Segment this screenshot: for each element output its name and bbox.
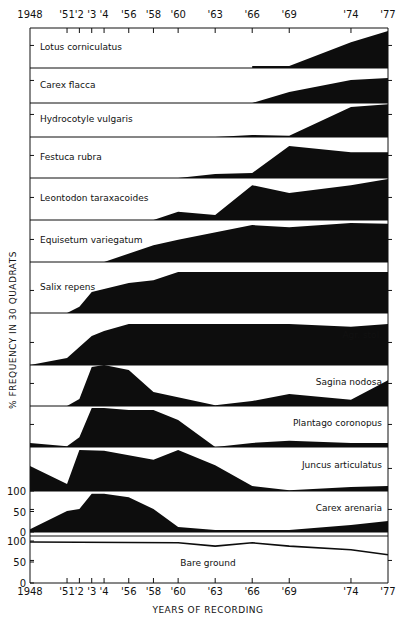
series-label: Carex arenaria: [316, 503, 382, 513]
band-leontodon-taraxacoides: Leontodon taraxacoides: [30, 179, 392, 220]
x-tick-label: '51: [59, 586, 74, 597]
series-label: Equisetum variegatum: [40, 235, 143, 245]
series-label: Carex flacca: [40, 80, 95, 90]
x-axis-label: YEARS OF RECORDING: [151, 605, 263, 615]
series-label: Leontodon taraxacoides: [40, 193, 149, 203]
x-tick-label: '74: [343, 9, 358, 20]
y-scale-label: 50: [13, 557, 26, 568]
x-tick-label: '77: [380, 9, 395, 20]
x-tick-label: '63: [207, 586, 222, 597]
y-scale-label: 50: [13, 507, 26, 518]
x-tick-label: '74: [343, 586, 358, 597]
band-lotus-corniculatus: Lotus corniculatus: [30, 31, 392, 68]
species-frequency-chart: Lotus corniculatusCarex flaccaHydrocotyl…: [0, 0, 404, 624]
x-tick-label: '3: [87, 9, 96, 20]
x-tick-label: '4: [100, 586, 109, 597]
x-tick-label: '60: [170, 9, 185, 20]
x-tick-label: '77: [380, 586, 395, 597]
x-tick-label: '2: [75, 9, 84, 20]
x-tick-label: '60: [170, 586, 185, 597]
series-label: Juncus articulatus: [301, 460, 382, 470]
x-axis-top: 1948'51'2'3'4'56'58'60'63'66'69'74'77: [17, 9, 395, 33]
species-bands: Lotus corniculatusCarex flaccaHydrocotyl…: [30, 31, 392, 568]
band-salix-repens: Salix repens: [30, 272, 392, 313]
series-label: Festuca rubra: [40, 152, 102, 162]
x-tick-label: '3: [87, 586, 96, 597]
series-label: Bare ground: [180, 558, 235, 568]
y-axis-label: % FREQUENCY IN 30 QUADRATS: [8, 251, 18, 409]
band-bare-ground: Bare ground: [30, 542, 392, 568]
x-tick-label: '56: [121, 9, 136, 20]
x-tick-label: '63: [207, 9, 222, 20]
band-carex-flacca: Carex flacca: [30, 78, 392, 103]
series-label: Sagina nodosa: [316, 377, 382, 387]
x-axis-bottom: 1948'51'2'3'4'56'58'60'63'66'69'74'77: [17, 578, 395, 597]
band-plantago-coronopus: Plantago coronopus: [30, 408, 392, 447]
x-tick-label: 1948: [17, 9, 42, 20]
series-label: Agr. stol.: [342, 330, 382, 340]
band-hydrocotyle-vulgaris: Hydrocotyle vulgaris: [30, 104, 392, 137]
band-equisetum-variegatum: Equisetum variegatum: [30, 223, 392, 262]
x-tick-label: '66: [244, 586, 259, 597]
x-tick-label: '58: [146, 9, 161, 20]
x-tick-label: '58: [146, 586, 161, 597]
band-sagina-nodosa: Sagina nodosa: [30, 365, 392, 406]
band-festuca-rubra: Festuca rubra: [30, 146, 392, 178]
x-tick-label: '69: [281, 9, 296, 20]
band-juncus-articulatus: Juncus articulatus: [30, 450, 392, 491]
series-label: Plantago coronopus: [293, 418, 382, 428]
y-scale-label: 0: [20, 578, 26, 589]
y-scale-label: 100: [7, 536, 26, 547]
x-tick-label: '66: [244, 9, 259, 20]
series-label: Lotus corniculatus: [40, 42, 122, 52]
x-tick-label: '2: [75, 586, 84, 597]
x-tick-label: '56: [121, 586, 136, 597]
series-label: Hydrocotyle vulgaris: [40, 114, 133, 124]
x-tick-label: '69: [281, 586, 296, 597]
band-agr-stol: Agr. stol.: [30, 324, 392, 365]
band-carex-arenaria: Carex arenaria: [30, 494, 392, 532]
y-scale-label: 100: [7, 486, 26, 497]
x-tick-label: '51: [59, 9, 74, 20]
x-tick-label: '4: [100, 9, 109, 20]
series-label: Salix repens: [40, 282, 95, 292]
